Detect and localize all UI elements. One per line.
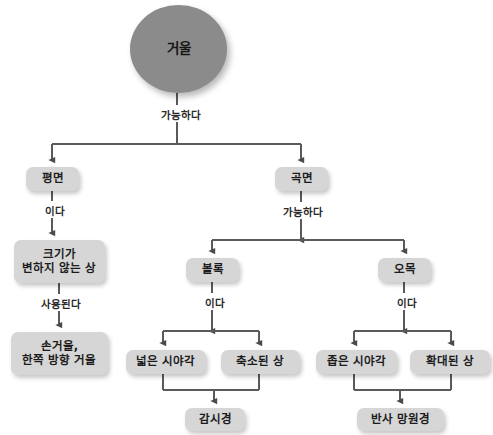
diagram-canvas: 거울 평면 곡면 크기가 변하지 않는 상 손거울, 한쪽 방향 거울 볼록 오…: [0, 0, 493, 435]
node-flat[interactable]: 평면: [26, 167, 79, 191]
node-same-size-image[interactable]: 크기가 변하지 않는 상: [14, 240, 105, 283]
edge-label-mirror-split: 가능하다: [146, 107, 216, 122]
node-hand-mirror[interactable]: 손거울, 한쪽 방향 거울: [11, 332, 108, 375]
edge-label-curved-split: 가능하다: [268, 204, 338, 219]
node-mirror[interactable]: 거울: [130, 5, 227, 93]
node-convex[interactable]: 볼록: [186, 258, 239, 282]
edge-label-concave-isa: 이다: [384, 295, 429, 310]
node-concave[interactable]: 오목: [378, 258, 431, 282]
edge-label-flat-isa: 이다: [32, 203, 77, 218]
node-magnified-image[interactable]: 확대된 상: [410, 350, 490, 374]
edge-label-same-size-used: 사용된다: [26, 296, 96, 311]
node-curved[interactable]: 곡면: [275, 167, 328, 191]
node-reduced-image[interactable]: 축소된 상: [221, 350, 300, 374]
node-reflecting-telescope[interactable]: 반사 망원경: [357, 408, 444, 431]
edge-label-convex-isa: 이다: [192, 295, 237, 310]
node-surveillance-mirror[interactable]: 감시경: [185, 408, 245, 431]
node-wide-view-angle[interactable]: 넓은 시야각: [126, 350, 206, 374]
node-narrow-view-angle[interactable]: 좁은 시야각: [316, 350, 397, 374]
